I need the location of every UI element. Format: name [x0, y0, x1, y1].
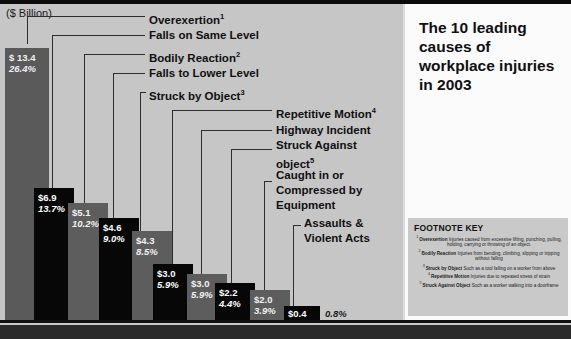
bar-label-bodily-reaction: $5.1 10.2%	[72, 207, 99, 229]
footnote-marker-3: 3	[240, 88, 244, 97]
bar-label-highway-incident: $3.0 5.9%	[191, 278, 213, 300]
leader-line-struck-against-object-h	[231, 149, 272, 150]
footnote-term: Repetitive Motion	[431, 274, 471, 279]
category-label-assaults: Assaults & Violent Acts	[304, 216, 404, 246]
footnote-term: Overexertion	[419, 237, 449, 242]
bar-assaults-violent-acts: $0.4	[284, 306, 320, 320]
category-label-struck-by-object-text: Struck by Object	[149, 90, 240, 102]
leader-line-struck-by-object-h	[140, 92, 146, 93]
footnote-item: 1 Overexertion Injuries caused from exce…	[412, 235, 566, 248]
bar-value-falls-to-lower-level: $4.6	[103, 222, 125, 233]
bar-value-bodily-reaction: $5.1	[72, 207, 99, 218]
bottom-rule-thin	[0, 320, 571, 323]
bar-label-falls-on-same-level: $6.9 13.7%	[38, 192, 65, 214]
leader-line-assaults-v	[293, 225, 294, 306]
bar-percent-struck-by-object: 8.5%	[136, 246, 158, 257]
leader-line-highway-incident-v	[201, 130, 202, 274]
leader-line-overexertion-v	[27, 16, 28, 44]
infographic-root: ($ Billion) $ 13.4 26.4% $6.9 13.7% $5.1…	[0, 0, 571, 339]
bar-value-struck-against-object: $2.2	[219, 287, 241, 298]
category-label-caught-in-equipment-text: Caught in or Compressed by Equipment	[276, 169, 362, 211]
page-title: The 10 leading causes of workplace injur…	[419, 18, 564, 94]
category-label-bodily-reaction-text: Bodily Reaction	[149, 52, 236, 64]
footnote-text: Such as a worker walking into a doorfram…	[472, 283, 559, 288]
category-label-repetitive-motion-text: Repetitive Motion	[276, 108, 372, 120]
bar-value-falls-on-same-level: $6.9	[38, 192, 65, 203]
leader-line-repetitive-motion-v	[172, 110, 173, 264]
footnote-item: 2 Bodily Reaction Injuries from bending,…	[412, 249, 566, 262]
bar-percent-falls-on-same-level: 13.7%	[38, 203, 65, 214]
bar-percent-repetitive-motion: 5.9%	[157, 279, 179, 290]
leader-line-caught-in-equipment-v	[264, 181, 265, 290]
footnote-marker-4: 4	[372, 106, 376, 115]
bar-label-caught-in-equipment: $2.0 3.9%	[254, 294, 276, 316]
bar-percent-bodily-reaction: 10.2%	[72, 218, 99, 229]
bar-value-caught-in-equipment: $2.0	[254, 294, 276, 305]
footnote-marker-1: 1	[220, 12, 224, 21]
category-label-falls-same-level-text: Falls on Same Level	[149, 29, 259, 41]
title-panel: The 10 leading causes of workplace injur…	[405, 4, 571, 320]
bar-percent-caught-in-equipment: 3.9%	[254, 305, 276, 316]
footnote-item: 5 Struck Against Object Such as a worker…	[412, 281, 566, 288]
leader-line-falls-lower-level-v	[113, 73, 114, 218]
leader-line-highway-incident-h	[201, 130, 272, 131]
bar-percent-falls-to-lower-level: 9.0%	[103, 233, 125, 244]
category-label-struck-by-object: Struck by Object3	[149, 85, 245, 104]
footnote-marker-2: 2	[236, 50, 240, 59]
category-label-falls-lower-level-text: Falls to Lower Level	[149, 67, 259, 79]
footnote-text: Injuries caused from excessive lifting, …	[447, 237, 562, 248]
footnote-item: 3 Struck by Object Such as a tool fallin…	[412, 264, 566, 271]
bar-percent-highway-incident: 5.9%	[191, 289, 213, 300]
category-label-caught-in-equipment: Caught in or Compressed by Equipment	[276, 168, 394, 213]
bar-value-repetitive-motion: $3.0	[157, 268, 179, 279]
leader-line-assaults-h	[293, 225, 301, 226]
bar-label-falls-to-lower-level: $4.6 9.0%	[103, 222, 125, 244]
footnote-item: 4 Repetitive Motion Injuries due to repe…	[412, 272, 566, 279]
footnote-text: Injuries due to repeated stress of strai…	[471, 274, 550, 279]
leader-line-overexertion-h	[27, 16, 145, 17]
leader-line-bodily-reaction-h	[84, 54, 145, 55]
category-label-overexertion: Overexertion1	[149, 9, 224, 28]
footnote-term: Struck by Object	[426, 265, 464, 270]
bar-percent-overexertion: 26.4%	[9, 63, 36, 74]
bar-label-assaults-violent-acts: $0.4	[288, 308, 307, 319]
bar-value-assaults-violent-acts: $0.4	[288, 308, 307, 319]
category-label-repetitive-motion: Repetitive Motion4	[276, 103, 376, 122]
axis-unit-label: ($ Billion)	[6, 7, 52, 19]
footnote-text: Injuries from bending, climbing, slippin…	[457, 251, 559, 262]
footnote-key-box: FOOTNOTE KEY 1 Overexertion Injuries cau…	[408, 218, 568, 316]
category-label-highway-incident-text: Highway Incident	[276, 124, 371, 136]
bar-percent-struck-against-object: 4.4%	[219, 298, 241, 309]
category-label-bodily-reaction: Bodily Reaction2	[149, 47, 240, 66]
bar-struck-against-object: $2.2 4.4%	[215, 283, 255, 320]
footnote-term: Bodily Reaction	[421, 251, 457, 256]
bar-label-repetitive-motion: $3.0 5.9%	[157, 268, 179, 290]
footnote-text: Such as a tool falling on a worker from …	[463, 265, 555, 270]
leader-line-falls-same-level-v	[52, 35, 53, 188]
leader-line-falls-same-level-h	[52, 35, 145, 36]
leader-line-bodily-reaction-v	[84, 54, 85, 203]
bar-label-struck-against-object: $2.2 4.4%	[219, 287, 241, 309]
bar-value-struck-by-object: $4.3	[136, 235, 158, 246]
category-label-falls-lower-level: Falls to Lower Level	[149, 66, 259, 81]
leader-line-caught-in-equipment-h	[264, 181, 272, 182]
footnote-term: Struck Against Object	[423, 283, 472, 288]
bar-value-overexertion: $ 13.4	[9, 52, 36, 63]
bar-chart-panel: ($ Billion) $ 13.4 26.4% $6.9 13.7% $5.1…	[0, 4, 405, 320]
leader-line-struck-by-object-v	[140, 92, 141, 231]
category-label-falls-same-level: Falls on Same Level	[149, 28, 259, 43]
category-label-assaults-text: Assaults & Violent Acts	[304, 217, 370, 244]
leader-line-falls-lower-level-h	[113, 73, 145, 74]
footnote-marker-5: 5	[310, 156, 314, 165]
bottom-rule	[0, 325, 571, 339]
leader-line-repetitive-motion-h	[172, 110, 272, 111]
category-label-struck-against-object-text: Struck Against object	[276, 139, 357, 170]
bar-label-struck-by-object: $4.3 8.5%	[136, 235, 158, 257]
bar-value-highway-incident: $3.0	[191, 278, 213, 289]
footnote-list: 1 Overexertion Injuries caused from exce…	[412, 235, 566, 290]
category-label-overexertion-text: Overexertion	[149, 14, 220, 26]
bar-percent-assaults-violent-acts: 0.8%	[325, 308, 347, 319]
bar-label-overexertion: $ 13.4 26.4%	[9, 52, 36, 74]
category-label-struck-against-object: Struck Against object5	[276, 138, 396, 172]
leader-line-struck-against-object-v	[231, 149, 232, 283]
